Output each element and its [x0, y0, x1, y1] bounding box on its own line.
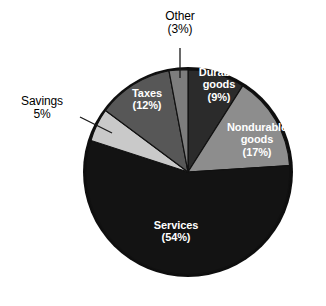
slice-label-nondurable-goods-line1: Nondurable: [227, 121, 287, 133]
slice-label-savings: Savings5%: [6, 95, 78, 122]
pie-chart: Durablegoods(9%) Nondurablegoods(17%) Se…: [0, 0, 326, 306]
slice-label-services-value: (54%): [162, 231, 191, 243]
slice-label-savings-value: 5%: [33, 107, 50, 121]
slice-label-nondurable-goods: Nondurablegoods(17%): [215, 121, 299, 158]
slice-label-nondurable-goods-line2: goods: [241, 133, 274, 145]
slice-label-services-line1: Services: [154, 219, 198, 231]
slice-label-services: Services(54%): [140, 219, 212, 244]
slice-label-durable-goods-value: (9%): [208, 91, 231, 103]
slice-label-taxes: Taxes(12%): [119, 87, 175, 112]
slice-label-durable-goods-line1: Durable: [199, 66, 239, 78]
slice-label-other-value: (3%): [168, 22, 193, 36]
slice-label-savings-line1: Savings: [21, 94, 63, 108]
slice-label-other-line1: Other: [165, 9, 195, 23]
slice-label-durable-goods: Durablegoods(9%): [188, 66, 250, 103]
slice-label-taxes-value: (12%): [133, 99, 162, 111]
slice-label-other: Other(3%): [147, 10, 213, 37]
slice-label-nondurable-goods-value: (17%): [243, 146, 272, 158]
slice-label-taxes-line1: Taxes: [132, 87, 162, 99]
slice-label-durable-goods-line2: goods: [203, 78, 236, 90]
